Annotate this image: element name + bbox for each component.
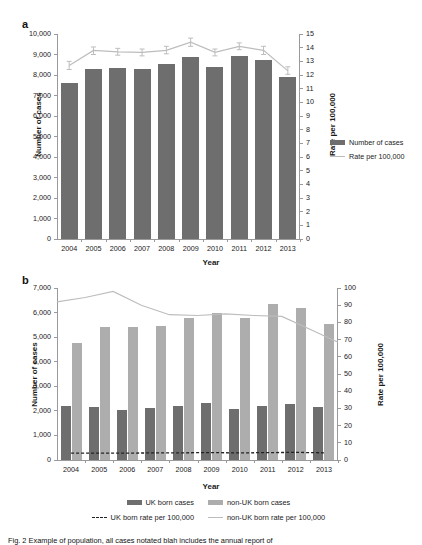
y2-tick bbox=[300, 198, 303, 199]
legend-label: UK born cases bbox=[146, 498, 194, 507]
y2-tick-label: 100 bbox=[344, 283, 370, 292]
y2-tick-label: 10 bbox=[344, 438, 370, 447]
y2-tick-label: 4 bbox=[306, 179, 332, 188]
panel-b-plot-area: 01,0002,0003,0004,0005,0006,0007,0000102… bbox=[57, 288, 338, 460]
y2-tick-label: 2 bbox=[306, 207, 332, 216]
y-tick-label: 5,000 bbox=[5, 332, 51, 341]
x-tick bbox=[169, 460, 170, 463]
y-tick-label: 7,000 bbox=[5, 91, 51, 100]
y2-tick-label: 90 bbox=[344, 300, 370, 309]
legend-line-swatch-icon bbox=[208, 517, 223, 518]
y-tick-label: 2,000 bbox=[5, 193, 51, 202]
y2-tick bbox=[300, 157, 303, 158]
x-tick bbox=[227, 239, 228, 242]
x-tick bbox=[130, 239, 131, 242]
y2-tick bbox=[338, 356, 341, 357]
x-tick bbox=[141, 460, 142, 463]
y2-tick-label: 30 bbox=[344, 403, 370, 412]
x-tick bbox=[254, 460, 255, 463]
legend-item-uk-born-rate-per-100-000: UK born rate per 100,000 bbox=[34, 513, 208, 522]
y2-tick-label: 20 bbox=[344, 421, 370, 430]
x-tick-label: 2013 bbox=[307, 465, 341, 474]
y2-tick-label: 8 bbox=[306, 125, 332, 134]
y2-tick bbox=[300, 102, 303, 103]
line-non-uk-born-rate-per-100-000 bbox=[57, 291, 338, 342]
y2-tick bbox=[300, 116, 303, 117]
y2-tick bbox=[300, 34, 303, 35]
legend-row: UK born casesnon-UK born cases bbox=[0, 498, 422, 507]
legend-line-swatch-icon bbox=[330, 156, 345, 157]
y-tick-label: 7,000 bbox=[5, 283, 51, 292]
y2-tick bbox=[338, 408, 341, 409]
legend-bar-swatch-icon bbox=[330, 140, 345, 145]
legend-item-uk-born-cases: UK born cases bbox=[34, 498, 208, 507]
y2-tick-label: 60 bbox=[344, 352, 370, 361]
panel-b-legend: UK born casesnon-UK born casesUK born ra… bbox=[0, 498, 422, 528]
y-tick-label: 8,000 bbox=[5, 70, 51, 79]
x-tick bbox=[282, 460, 283, 463]
y2-tick bbox=[300, 75, 303, 76]
y2-tick-label: 80 bbox=[344, 317, 370, 326]
y2-tick-label: 50 bbox=[344, 369, 370, 378]
legend-label: non-UK born rate per 100,000 bbox=[227, 513, 325, 522]
y2-tick bbox=[338, 339, 341, 340]
y2-tick-label: 3 bbox=[306, 193, 332, 202]
y2-tick-label: 5 bbox=[306, 166, 332, 175]
y2-tick-label: 11 bbox=[306, 84, 332, 93]
x-tick bbox=[154, 239, 155, 242]
x-tick bbox=[300, 239, 301, 242]
panel-a-legend: Number of casesRate per 100,000 bbox=[330, 138, 405, 166]
y-tick-label: 4,000 bbox=[5, 152, 51, 161]
y-tick-label: 5,000 bbox=[5, 132, 51, 141]
y-tick-label: 9,000 bbox=[5, 50, 51, 59]
error-bar-2004 bbox=[67, 61, 72, 69]
legend-label: non-UK born cases bbox=[227, 498, 290, 507]
y-tick-label: 1,000 bbox=[5, 430, 51, 439]
y2-tick bbox=[300, 211, 303, 212]
x-tick bbox=[106, 239, 107, 242]
y-tick-label: 6,000 bbox=[5, 111, 51, 120]
panel-a-x-axis-title: Year bbox=[0, 258, 422, 267]
figure-root: a Number of cases Rate per 100,000 01,00… bbox=[0, 0, 422, 545]
y2-tick bbox=[300, 184, 303, 185]
x-tick bbox=[198, 460, 199, 463]
y2-tick bbox=[338, 288, 341, 289]
x-tick bbox=[251, 239, 252, 242]
panel-a-plot-area: 01,0002,0003,0004,0005,0006,0007,0008,00… bbox=[57, 34, 300, 239]
y2-tick bbox=[338, 322, 341, 323]
y2-tick bbox=[300, 129, 303, 130]
y2-tick-label: 9 bbox=[306, 111, 332, 120]
panel-b-x-axis-title: Year bbox=[0, 482, 422, 491]
x-tick bbox=[179, 239, 180, 242]
y2-tick bbox=[338, 425, 341, 426]
y-tick-label: 10,000 bbox=[5, 29, 51, 38]
y-tick-label: 3,000 bbox=[5, 381, 51, 390]
x-tick bbox=[203, 239, 204, 242]
y2-tick bbox=[300, 88, 303, 89]
y2-tick-label: 70 bbox=[344, 335, 370, 344]
x-tick bbox=[338, 460, 339, 463]
x-tick bbox=[85, 460, 86, 463]
y-tick-label: 2,000 bbox=[5, 406, 51, 415]
y2-tick-label: 15 bbox=[306, 29, 332, 38]
y-tick-label: 0 bbox=[5, 455, 51, 464]
y-tick-label: 6,000 bbox=[5, 308, 51, 317]
x-tick-label: 2013 bbox=[271, 244, 305, 253]
legend-bar-swatch-icon bbox=[127, 500, 142, 505]
line-rate-per-100-000 bbox=[69, 42, 288, 71]
y2-tick bbox=[300, 170, 303, 171]
y2-tick-label: 6 bbox=[306, 152, 332, 161]
legend-label: Number of cases bbox=[349, 138, 403, 147]
y2-tick-label: 12 bbox=[306, 70, 332, 79]
x-tick bbox=[226, 460, 227, 463]
y2-tick-label: 0 bbox=[344, 455, 370, 464]
x-tick bbox=[276, 239, 277, 242]
x-tick bbox=[113, 460, 114, 463]
y2-tick bbox=[338, 305, 341, 306]
legend-item-rate-per-100-000: Rate per 100,000 bbox=[330, 152, 405, 161]
y2-tick bbox=[338, 374, 341, 375]
line-overlay bbox=[57, 34, 300, 239]
y-tick-label: 4,000 bbox=[5, 357, 51, 366]
line-overlay bbox=[57, 288, 338, 460]
y-tick-label: 0 bbox=[5, 234, 51, 243]
